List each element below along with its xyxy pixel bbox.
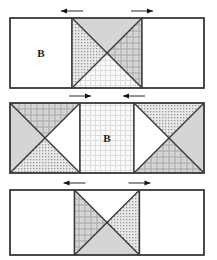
row-top-arrow-right-pointing (131, 8, 153, 13)
row-bottom-arrow-right-pointing (129, 180, 151, 185)
diagram-canvas (0, 0, 217, 260)
row-bottom-arrow-left-pointing (64, 180, 86, 185)
row-middle-arrow-left-pointing (123, 93, 145, 98)
row-middle-arrow-right-pointing (69, 93, 91, 98)
row-top-arrow-left-pointing (61, 8, 83, 13)
quilt-block-diagram: BB (0, 0, 217, 260)
row-bottom-left-rectangle (10, 190, 75, 255)
row-top-left-label: B (37, 48, 44, 59)
row-middle-center-label: B (103, 133, 110, 144)
row-top-right-rectangle (142, 18, 204, 88)
row-bottom (10, 180, 204, 255)
row-bottom-right-rectangle (140, 190, 205, 255)
